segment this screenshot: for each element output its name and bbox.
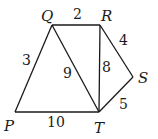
graph-diagram: 3 2 9 8 4 5 10 P Q R S T (0, 0, 158, 139)
weight-p-q: 3 (22, 52, 31, 68)
edges (15, 25, 133, 112)
vertex-label-p: P (3, 117, 15, 135)
vertex-label-s: S (138, 69, 148, 87)
weight-r-s: 4 (119, 32, 128, 48)
edge-q-t (52, 25, 99, 112)
edge-p-q (15, 25, 52, 112)
vertex-label-t: T (94, 119, 105, 137)
weight-r-t: 8 (102, 59, 111, 75)
weight-p-t: 10 (47, 114, 65, 130)
weight-q-t: 9 (63, 65, 72, 81)
weight-q-r: 2 (73, 6, 82, 22)
weight-s-t: 5 (119, 96, 128, 112)
vertex-label-q: Q (41, 7, 53, 25)
edge-r-t (99, 25, 100, 112)
vertex-labels: P Q R S T (3, 7, 148, 137)
vertex-label-r: R (100, 7, 112, 25)
